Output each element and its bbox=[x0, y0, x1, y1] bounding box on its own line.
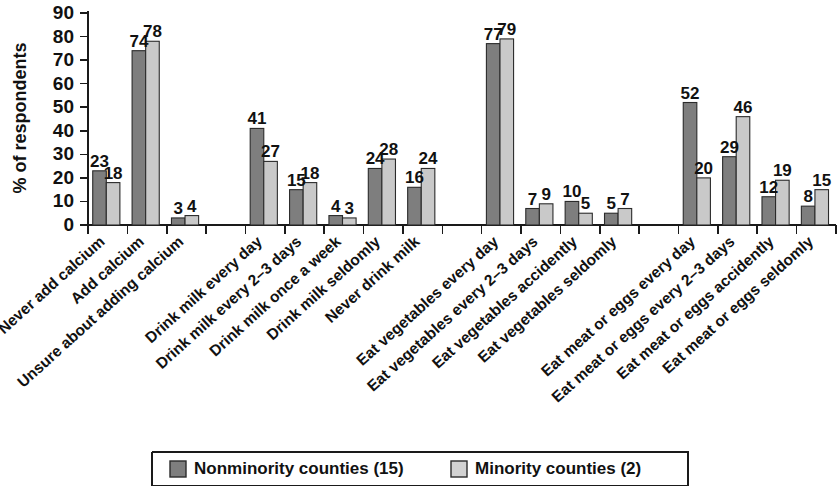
bar-minority bbox=[736, 117, 750, 225]
bar-minority bbox=[343, 218, 357, 225]
y-tick-label: 30 bbox=[53, 143, 74, 164]
bar-value-label: 3 bbox=[174, 199, 183, 218]
x-axis-ticks bbox=[88, 225, 836, 234]
light-gray-swatch bbox=[451, 461, 467, 477]
bar-minority bbox=[500, 39, 514, 225]
bar-value-label: 10 bbox=[562, 182, 581, 201]
bar-value-label: 5 bbox=[607, 194, 616, 213]
bar-value-label: 52 bbox=[681, 84, 700, 103]
bar-nonminority bbox=[329, 216, 343, 225]
bar-nonminority bbox=[486, 44, 500, 225]
chart-legend: Nonminority counties (15) Minority count… bbox=[152, 452, 688, 486]
bar-nonminority bbox=[801, 206, 815, 225]
legend-label-nonminority: Nonminority counties (15) bbox=[194, 459, 404, 478]
bar-nonminority bbox=[605, 213, 619, 225]
bar-value-label: 18 bbox=[104, 164, 123, 183]
bar-minority bbox=[539, 204, 553, 225]
bar-minority bbox=[264, 161, 278, 225]
bar-value-label: 19 bbox=[773, 161, 792, 180]
y-tick-label: 80 bbox=[53, 26, 74, 47]
bar-value-label: 5 bbox=[581, 194, 590, 213]
y-axis: 0102030405060708090 % of respondents bbox=[10, 2, 88, 235]
y-tick-label: 60 bbox=[53, 73, 74, 94]
bar-nonminority bbox=[171, 218, 185, 225]
bar-value-label: 9 bbox=[541, 185, 550, 204]
bar-chart-figure: 0102030405060708090 % of respondents 231… bbox=[0, 0, 840, 486]
y-axis-ticks: 0102030405060708090 bbox=[53, 2, 88, 235]
dark-gray-swatch bbox=[170, 461, 186, 477]
bar-value-label: 12 bbox=[759, 178, 778, 197]
x-axis bbox=[88, 225, 836, 234]
bar-value-label: 41 bbox=[248, 109, 267, 128]
y-axis-title: % of respondents bbox=[10, 42, 30, 193]
bar-value-label: 15 bbox=[812, 171, 831, 190]
chart-canvas: 0102030405060708090 % of respondents 231… bbox=[0, 0, 840, 486]
bar-value-label: 16 bbox=[405, 168, 424, 187]
bar-value-label: 46 bbox=[734, 98, 753, 117]
bar-minority bbox=[815, 190, 829, 225]
bar-value-label: 78 bbox=[143, 22, 162, 41]
bar-nonminority bbox=[408, 187, 422, 225]
bar-value-label: 7 bbox=[528, 190, 537, 209]
y-tick-label: 0 bbox=[63, 214, 74, 235]
bar-minority bbox=[618, 209, 632, 225]
bar-nonminority bbox=[132, 51, 146, 225]
bar-value-label: 18 bbox=[300, 164, 319, 183]
bar-value-label: 27 bbox=[261, 142, 280, 161]
y-tick-label: 50 bbox=[53, 96, 74, 117]
bar-minority bbox=[106, 183, 120, 225]
bar-nonminority bbox=[762, 197, 776, 225]
bars-layer bbox=[93, 39, 829, 225]
y-tick-label: 70 bbox=[53, 49, 74, 70]
bar-value-label: 24 bbox=[419, 149, 438, 168]
bar-value-label: 79 bbox=[497, 20, 516, 39]
bar-minority bbox=[185, 216, 199, 225]
bar-value-label: 20 bbox=[694, 159, 713, 178]
bar-nonminority bbox=[565, 201, 579, 225]
legend-label-minority: Minority counties (2) bbox=[475, 459, 641, 478]
y-tick-label: 90 bbox=[53, 2, 74, 23]
bar-minority bbox=[146, 41, 160, 225]
bar-value-label: 7 bbox=[620, 190, 629, 209]
bar-nonminority bbox=[290, 190, 304, 225]
bar-nonminority bbox=[526, 209, 540, 225]
bar-minority bbox=[697, 178, 711, 225]
bar-minority bbox=[382, 159, 396, 225]
bar-value-label: 3 bbox=[345, 199, 354, 218]
bar-nonminority bbox=[723, 157, 737, 225]
y-tick-label: 10 bbox=[53, 190, 74, 211]
bar-value-label: 4 bbox=[331, 197, 341, 216]
bar-value-label: 4 bbox=[187, 197, 197, 216]
y-tick-label: 40 bbox=[53, 120, 74, 141]
y-tick-label: 20 bbox=[53, 167, 74, 188]
bar-value-label: 28 bbox=[379, 140, 398, 159]
bar-value-label: 29 bbox=[720, 138, 739, 157]
bar-nonminority bbox=[368, 168, 382, 225]
value-labels-layer: 2318747834412715184324281624777979105575… bbox=[90, 20, 831, 218]
bar-minority bbox=[579, 213, 593, 225]
x-category-label: Eat meat or eggs accidently bbox=[613, 232, 777, 382]
category-axis-labels: Never add calciumAdd calciumUnsure about… bbox=[0, 232, 817, 405]
bar-value-label: 8 bbox=[803, 187, 812, 206]
